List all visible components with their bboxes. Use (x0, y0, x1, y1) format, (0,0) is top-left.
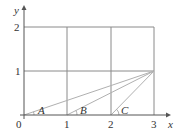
x-axis-label: x (167, 118, 173, 130)
angle-label-C: C (121, 104, 129, 116)
angle-label-A: A (37, 104, 45, 116)
x-axis-arrow-icon (166, 113, 171, 118)
axes (20, 9, 166, 119)
x-tick-2: 2 (108, 118, 114, 130)
y-tick-1: 1 (15, 65, 21, 77)
coordinate-diagram: y x 0 1 2 3 2 1 A B C (0, 0, 178, 135)
y-axis-label: y (13, 4, 19, 16)
x-tick-3: 3 (151, 118, 157, 130)
angle-arc-B (76, 111, 77, 116)
origin-label: 0 (16, 118, 22, 130)
x-tick-1: 1 (64, 118, 70, 130)
y-axis-arrow-icon (22, 5, 27, 10)
ray-C (111, 71, 154, 115)
angle-arc-C (117, 110, 119, 116)
y-tick-2: 2 (14, 21, 20, 33)
grid (24, 27, 154, 115)
angle-label-B: B (80, 104, 87, 116)
